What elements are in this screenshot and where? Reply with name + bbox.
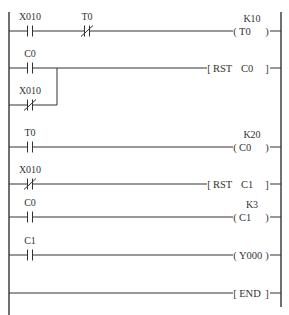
contact-label: C0	[24, 197, 36, 208]
output-coil: ()C0K20	[233, 129, 281, 154]
parallel-branch: X010	[9, 68, 57, 111]
coil-operand: Y000	[239, 250, 262, 261]
no-contact: T0	[24, 127, 35, 153]
contact-label: T0	[81, 11, 92, 22]
bracket-left: [	[207, 63, 211, 74]
nc-contact: T0	[81, 11, 93, 37]
contact-label: X010	[19, 85, 41, 96]
rung-6: C1()Y000	[9, 235, 281, 262]
coil-preset: K10	[243, 13, 260, 24]
rung-3: T0()C0K20	[9, 127, 281, 154]
no-contact: X010	[19, 11, 41, 37]
coil-right-paren: )	[265, 142, 269, 154]
contact-label: X010	[19, 164, 41, 175]
output-coil: ()Y000	[233, 250, 281, 262]
rungs: X010T0()T0K10C0X010[RSTC0]T0()C0K20X010[…	[9, 11, 281, 299]
no-contact: C0	[24, 48, 36, 74]
coil-right-paren: )	[265, 250, 269, 262]
instruction-operand: C0	[241, 63, 253, 74]
contact-label: X010	[19, 11, 41, 22]
ladder-diagram: X010T0()T0K10C0X010[RSTC0]T0()C0K20X010[…	[0, 0, 289, 315]
rst-instruction: [RSTC1]	[207, 179, 281, 190]
coil-left-paren: (	[233, 142, 237, 154]
rung-5: C0()C1K3	[9, 197, 281, 224]
coil-preset: K3	[246, 199, 258, 210]
bracket-right: ]	[265, 288, 269, 299]
end-label: END	[239, 288, 261, 299]
coil-operand: T0	[239, 26, 251, 37]
bracket-right: ]	[265, 179, 269, 190]
output-coil: ()C1K3	[233, 199, 281, 224]
coil-operand: C0	[239, 142, 251, 153]
instruction-operand: C1	[241, 179, 253, 190]
no-contact: C1	[24, 235, 36, 261]
power-rails	[9, 12, 281, 315]
coil-right-paren: )	[265, 212, 269, 224]
nc-contact: X010	[19, 85, 41, 111]
bracket-left: [	[233, 288, 237, 299]
coil-preset: K20	[243, 129, 260, 140]
bracket-right: ]	[265, 63, 269, 74]
contact-label: T0	[24, 127, 35, 138]
contact-label: C1	[24, 235, 36, 246]
contact-label: C0	[24, 48, 36, 59]
rung-4: X010[RSTC1]	[9, 164, 281, 190]
rst-instruction: [RSTC0]	[207, 63, 281, 74]
coil-left-paren: (	[233, 212, 237, 224]
rung-7: [END]	[9, 288, 281, 299]
instruction-op: RST	[213, 179, 233, 190]
end-instruction: [END]	[233, 288, 281, 299]
no-contact: C0	[24, 197, 36, 223]
nc-contact: X010	[19, 164, 41, 190]
instruction-op: RST	[213, 63, 233, 74]
coil-left-paren: (	[233, 26, 237, 38]
rung-1: X010T0()T0K10	[9, 11, 281, 38]
coil-right-paren: )	[265, 26, 269, 38]
rung-2: C0X010[RSTC0]	[9, 48, 281, 111]
coil-operand: C1	[239, 212, 251, 223]
coil-left-paren: (	[233, 250, 237, 262]
output-coil: ()T0K10	[233, 13, 281, 38]
bracket-left: [	[207, 179, 211, 190]
